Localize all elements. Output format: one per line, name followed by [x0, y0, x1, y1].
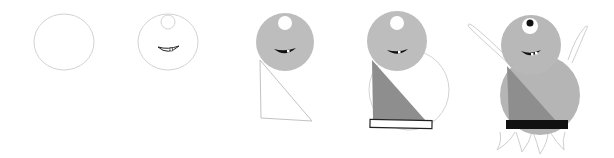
eye — [390, 16, 404, 30]
mouth-outline — [158, 46, 179, 51]
head-outline — [34, 14, 94, 70]
eye — [278, 16, 292, 30]
step-2-figure — [138, 14, 198, 70]
belt — [506, 120, 568, 129]
step-3-figure — [256, 13, 314, 121]
feet-outline — [497, 132, 565, 154]
belt-outline — [370, 119, 432, 128]
pupil — [527, 20, 534, 27]
step-1-figure — [34, 14, 94, 70]
head-outline — [138, 14, 198, 70]
tutorial-canvas — [0, 0, 614, 158]
step-5-figure — [468, 15, 588, 154]
right-arm-outline — [568, 26, 588, 63]
eye-outline — [161, 15, 175, 29]
step-4-figure — [367, 11, 449, 130]
